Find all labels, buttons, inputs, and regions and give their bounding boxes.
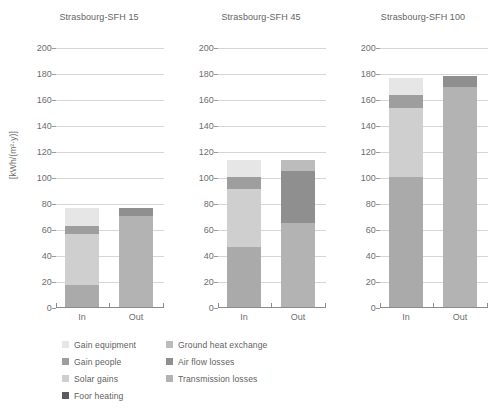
legend-item-ground-heat-exchange[interactable]: Ground heat exchange: [166, 336, 356, 353]
stacked-bar-out[interactable]: [119, 208, 153, 307]
y-axis-tick-label: 180: [350, 69, 376, 79]
y-axis-tick-mark: [52, 48, 56, 49]
stacked-bar-out[interactable]: [281, 160, 315, 307]
gridline: [56, 152, 164, 153]
gridline: [56, 100, 164, 101]
x-axis-line: [56, 307, 164, 308]
legend-label: Air flow losses: [178, 357, 234, 367]
y-axis-tick-label: 20: [350, 277, 376, 287]
y-axis-tick-label: 40: [350, 251, 376, 261]
chart-panel-3: Strasbourg-SFH 1000204060801001201401601…: [342, 8, 504, 328]
legend-label: Gain equipment: [74, 340, 136, 350]
y-axis-tick-mark: [214, 48, 218, 49]
y-axis-tick-mark: [376, 256, 380, 257]
y-axis-tick-label: 160: [188, 95, 214, 105]
y-axis-tick-mark: [376, 308, 380, 309]
x-axis-tick-mark: [163, 303, 164, 308]
y-axis-tick-label: 0: [188, 303, 214, 313]
chart-panels-row: Strasbourg-SFH 1502040608010012014016018…: [18, 8, 504, 328]
x-axis-tick-mark: [271, 303, 272, 308]
y-axis-tick-mark: [376, 178, 380, 179]
bar-segment-solar_gains[interactable]: [389, 108, 423, 177]
bar-segment-transmission_losses[interactable]: [281, 223, 315, 308]
y-axis-tick-mark: [52, 308, 56, 309]
y-axis-tick-label: 0: [26, 303, 52, 313]
legend-item-gain-equipment[interactable]: Gain equipment: [62, 336, 166, 353]
gridline: [56, 48, 164, 49]
y-axis-tick-mark: [52, 204, 56, 205]
y-axis-tick-label: 20: [26, 277, 52, 287]
legend-label: Solar gains: [74, 374, 118, 384]
panel-title: Strasbourg-SFH 100: [342, 12, 504, 22]
bar-segment-gain_people[interactable]: [389, 95, 423, 108]
legend-column-2: Ground heat exchangeAir flow lossesTrans…: [166, 336, 356, 404]
y-axis-tick-label: 160: [350, 95, 376, 105]
stacked-bar-in[interactable]: [65, 208, 99, 307]
x-axis-line: [218, 307, 326, 308]
y-axis-tick-label: 40: [26, 251, 52, 261]
y-axis-tick-label: 80: [26, 199, 52, 209]
bar-segment-foor_heating[interactable]: [227, 247, 261, 307]
y-axis-tick-label: 140: [26, 121, 52, 131]
y-axis-tick-mark: [376, 48, 380, 49]
plot-area: 020406080100120140160180200InOut: [380, 48, 488, 308]
y-axis-tick-mark: [376, 100, 380, 101]
y-axis-tick-mark: [52, 256, 56, 257]
bar-segment-transmission_losses[interactable]: [443, 87, 477, 307]
panel-title: Strasbourg-SFH 45: [180, 12, 342, 22]
y-axis-tick-label: 120: [188, 147, 214, 157]
bar-segment-foor_heating[interactable]: [65, 285, 99, 307]
bar-segment-gain_equipment[interactable]: [227, 160, 261, 177]
y-axis-tick-label: 60: [350, 225, 376, 235]
legend-item-transmission-losses[interactable]: Transmission losses: [166, 370, 356, 387]
stacked-bar-out[interactable]: [443, 76, 477, 307]
y-axis-tick-mark: [376, 74, 380, 75]
x-axis-tick-label: In: [65, 312, 99, 322]
legend-label: Foor heating: [74, 391, 123, 401]
bar-segment-ground_heat_exchange[interactable]: [281, 160, 315, 170]
y-axis-tick-label: 140: [350, 121, 376, 131]
stacked-bar-in[interactable]: [227, 160, 261, 307]
legend-item-gain-people[interactable]: Gain people: [62, 353, 166, 370]
x-axis-tick-mark: [433, 303, 434, 308]
legend-item-floor-heating[interactable]: Foor heating: [62, 387, 166, 404]
bar-segment-air_flow_losses[interactable]: [119, 208, 153, 216]
bar-segment-gain_equipment[interactable]: [389, 78, 423, 95]
bar-segment-gain_people[interactable]: [65, 226, 99, 234]
gridline: [218, 100, 326, 101]
bar-segment-gain_equipment[interactable]: [65, 208, 99, 226]
y-axis-tick-label: 0: [350, 303, 376, 313]
stacked-bar-in[interactable]: [389, 78, 423, 307]
y-axis-tick-mark: [52, 126, 56, 127]
y-axis-tick-mark: [52, 74, 56, 75]
bar-segment-air_flow_losses[interactable]: [443, 76, 477, 88]
gridline: [218, 48, 326, 49]
y-axis-tick-mark: [214, 282, 218, 283]
x-axis-tick-mark: [380, 303, 381, 308]
y-axis-tick-label: 40: [188, 251, 214, 261]
gridline: [56, 74, 164, 75]
y-axis-tick-label: 100: [350, 173, 376, 183]
bar-segment-foor_heating[interactable]: [389, 177, 423, 307]
y-axis-tick-label: 180: [26, 69, 52, 79]
bar-segment-transmission_losses[interactable]: [119, 216, 153, 307]
bar-segment-air_flow_losses[interactable]: [281, 171, 315, 223]
y-axis-tick-label: 60: [188, 225, 214, 235]
bar-segment-solar_gains[interactable]: [227, 189, 261, 248]
plot-area: 020406080100120140160180200InOut: [56, 48, 164, 308]
bar-segment-solar_gains[interactable]: [65, 234, 99, 285]
y-axis-tick-mark: [214, 204, 218, 205]
y-axis-tick-mark: [52, 178, 56, 179]
legend-swatch-icon: [62, 341, 69, 348]
legend-item-air-flow-losses[interactable]: Air flow losses: [166, 353, 356, 370]
x-axis-tick-mark: [109, 303, 110, 308]
gridline: [380, 48, 488, 49]
x-axis-tick-label: In: [227, 312, 261, 322]
chart-panel-1: Strasbourg-SFH 1502040608010012014016018…: [18, 8, 180, 328]
y-axis-tick-label: 120: [350, 147, 376, 157]
y-axis-tick-mark: [214, 256, 218, 257]
gridline: [56, 178, 164, 179]
y-axis-tick-label: 180: [188, 69, 214, 79]
legend-item-solar-gains[interactable]: Solar gains: [62, 370, 166, 387]
bar-segment-gain_people[interactable]: [227, 177, 261, 189]
